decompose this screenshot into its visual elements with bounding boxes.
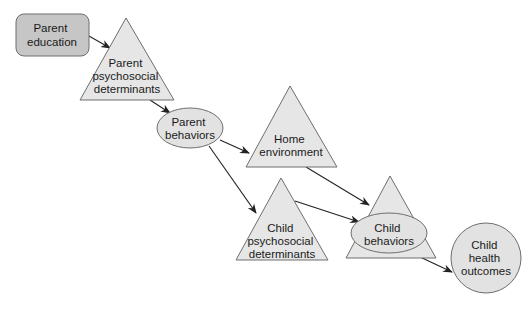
edge-parent-behaviors-to-child-psychosocial	[209, 146, 256, 213]
edge-home-environment-to-child-behaviors	[306, 167, 369, 205]
node-child-health-outcomes: Child health outcomes	[451, 223, 521, 293]
node-label: Parent behaviors	[165, 116, 215, 141]
node-child-behaviors: Child behaviors	[346, 176, 436, 258]
node-parent-psychosocial-determinants: Parent psychosocial determinants	[80, 18, 174, 100]
edge-parent-education-to-parent-psychosocial	[89, 36, 110, 48]
edge-child-behaviors-to-child-health-outcomes	[420, 257, 452, 272]
node-child-psychosocial-determinants: Child psychosocial determinants	[236, 178, 328, 260]
pathway-diagram: Parent education Parent psychosocial det…	[0, 0, 529, 311]
node-home-environment: Home environment	[246, 86, 337, 167]
edge-parent-behaviors-to-home-environment	[220, 140, 249, 153]
node-parent-behaviors: Parent behaviors	[157, 108, 223, 148]
edge-parent-psychosocial-to-parent-behaviors	[150, 100, 170, 113]
node-parent-education: Parent education	[16, 14, 89, 56]
